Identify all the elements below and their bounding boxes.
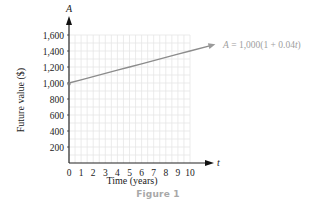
y-tick-labels: 2004006008001,0001,2001,4001,600 [43, 31, 69, 153]
x-axis-title: Time (years) [106, 175, 157, 187]
x-tick-label: 0 [67, 168, 72, 178]
grid-lines [69, 35, 190, 163]
x-axis-var: t [217, 157, 220, 168]
x-axis-arrow-icon [205, 160, 214, 166]
x-tick-label: 9 [176, 168, 181, 178]
y-tick-label: 400 [50, 127, 65, 137]
line-arrow-icon [208, 43, 216, 49]
equation-annotation: A = 1,000(1 + 0.04t) [222, 40, 301, 51]
start-point [67, 82, 70, 85]
y-axis-title: Future value ($) [15, 68, 27, 132]
y-tick-label: 1,000 [43, 79, 65, 89]
x-tick-label: 1 [79, 168, 84, 178]
x-tick-label: 2 [91, 168, 96, 178]
y-tick-label: 200 [50, 143, 65, 153]
figure-caption: Figure 1 [0, 189, 316, 199]
x-tick-label: 8 [163, 168, 168, 178]
y-tick-label: 1,400 [43, 47, 65, 57]
y-tick-label: 1,600 [43, 31, 65, 41]
y-axis-arrow-icon [66, 16, 72, 25]
y-tick-label: 1,200 [43, 63, 65, 73]
y-tick-label: 600 [50, 111, 65, 121]
x-tick-label: 10 [185, 168, 195, 178]
y-axis-var: A [65, 3, 73, 14]
y-tick-label: 800 [50, 95, 65, 105]
chart: 2004006008001,0001,2001,4001,600 0123456… [0, 0, 316, 213]
